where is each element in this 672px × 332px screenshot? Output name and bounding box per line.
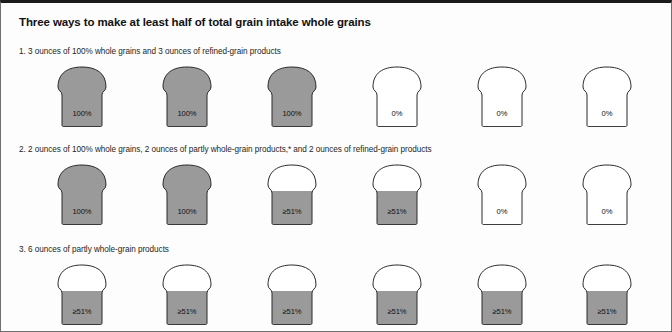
bread-slice-icon: ≥51% — [266, 263, 318, 325]
page-title: Three ways to make at least half of tota… — [19, 16, 371, 28]
bread-slice-icon: 100% — [161, 163, 213, 225]
bread-slice-icon: 100% — [56, 163, 108, 225]
bread-slice-icon: 0% — [581, 65, 633, 127]
bread-slice-icon: 0% — [581, 163, 633, 225]
bread-slice-icon: 100% — [161, 65, 213, 127]
scenario-caption: 3. 6 ounces of partly whole-grain produc… — [19, 245, 169, 254]
bread-slice-icon: ≥51% — [371, 163, 423, 225]
bread-slice-icon: 0% — [371, 65, 423, 127]
infographic-frame: Three ways to make at least half of tota… — [0, 0, 672, 332]
bread-slice-icon: ≥51% — [476, 263, 528, 325]
bread-slice-icon: 0% — [476, 65, 528, 127]
bread-slice-icon: 100% — [266, 65, 318, 127]
bread-slice-group: 100%100%≥51%≥51%0%0% — [56, 163, 656, 229]
bread-slice-icon: ≥51% — [581, 263, 633, 325]
bread-slice-group: 100%100%100%0%0%0% — [56, 65, 656, 131]
bread-slice-icon: 0% — [476, 163, 528, 225]
bread-slice-icon: ≥51% — [56, 263, 108, 325]
bread-slice-group: ≥51%≥51%≥51%≥51%≥51%≥51% — [56, 263, 656, 329]
bread-slice-icon: ≥51% — [266, 163, 318, 225]
bread-slice-icon: 100% — [56, 65, 108, 127]
scenario-caption: 1. 3 ounces of 100% whole grains and 3 o… — [19, 47, 281, 56]
bread-slice-icon: ≥51% — [161, 263, 213, 325]
scenario-caption: 2. 2 ounces of 100% whole grains, 2 ounc… — [19, 145, 432, 154]
bread-slice-icon: ≥51% — [371, 263, 423, 325]
